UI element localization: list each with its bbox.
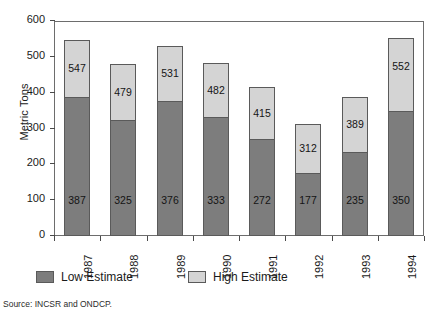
x-tick-mark [147, 236, 148, 241]
y-tick-mark [50, 163, 55, 164]
bar-value-low-1992: 177 [291, 194, 325, 206]
y-tick-mark [50, 20, 55, 21]
legend-label: Low Estimate [61, 270, 133, 284]
y-tick-label: 100 [0, 192, 45, 204]
bar-segment-low-1994 [388, 111, 414, 236]
legend-item-low-estimate[interactable]: Low Estimate [36, 270, 133, 284]
y-tick-label: 600 [0, 13, 45, 25]
y-tick-mark [50, 128, 55, 129]
legend-swatch-icon [36, 271, 54, 283]
y-tick-mark [50, 56, 55, 57]
source-note: Source: INCSR and ONDCP. [3, 299, 112, 309]
stacked-bar-chart: Metric Tons 6005004003002001000 19871988… [0, 0, 442, 315]
bar-value-high-1992: 312 [291, 142, 325, 154]
y-tick-label: 500 [0, 49, 45, 61]
bar-value-low-1991: 272 [245, 194, 279, 206]
bar-value-low-1994: 350 [384, 194, 418, 206]
bar-segment-low-1990 [203, 117, 229, 236]
bar-value-high-1989: 531 [153, 67, 187, 79]
bar-segment-low-1987 [64, 97, 90, 236]
y-tick-mark [50, 199, 55, 200]
chart-legend: Low EstimateHigh Estimate [0, 270, 442, 290]
bar-segment-low-1988 [110, 120, 136, 236]
bar-value-low-1989: 376 [153, 194, 187, 206]
x-tick-mark [239, 236, 240, 241]
bar-value-high-1988: 479 [106, 86, 140, 98]
legend-swatch-icon [188, 271, 206, 283]
bar-segment-high-1994 [388, 38, 414, 111]
x-tick-mark [54, 236, 55, 241]
x-tick-mark [332, 236, 333, 241]
bar-segment-low-1991 [249, 139, 275, 236]
bar-value-low-1993: 235 [338, 194, 372, 206]
y-axis-title: Metric Tons [18, 52, 30, 172]
bar-value-low-1988: 325 [106, 194, 140, 206]
y-tick-label: 200 [0, 156, 45, 168]
y-tick-label: 400 [0, 85, 45, 97]
bar-value-low-1987: 387 [60, 194, 94, 206]
bar-segment-low-1989 [157, 101, 183, 236]
bar-value-high-1987: 547 [60, 62, 94, 74]
bar-value-high-1990: 482 [199, 84, 233, 96]
bar-value-high-1994: 552 [384, 60, 418, 72]
bar-value-low-1990: 333 [199, 194, 233, 206]
y-tick-label: 300 [0, 121, 45, 133]
x-tick-mark [424, 236, 425, 241]
bar-value-high-1993: 389 [338, 118, 372, 130]
bar-value-high-1991: 415 [245, 107, 279, 119]
legend-label: High Estimate [213, 270, 288, 284]
legend-item-high-estimate[interactable]: High Estimate [188, 270, 288, 284]
x-tick-mark [100, 236, 101, 241]
y-tick-mark [50, 92, 55, 93]
x-tick-mark [193, 236, 194, 241]
x-tick-mark [285, 236, 286, 241]
y-tick-label: 0 [0, 228, 45, 240]
x-tick-mark [378, 236, 379, 241]
